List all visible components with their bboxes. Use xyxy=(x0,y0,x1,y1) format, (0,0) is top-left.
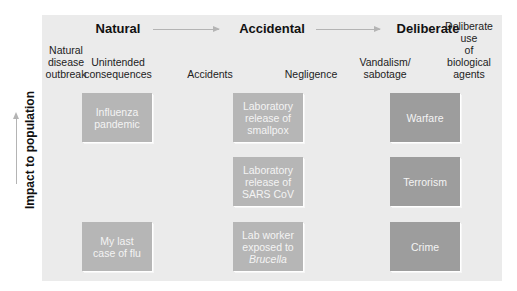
box-lab-release-sars-cov: Laboratory release of SARS CoV xyxy=(233,157,303,206)
subheading-negligence: Negligence xyxy=(285,68,338,80)
y-axis-label: Impact to population xyxy=(23,91,37,209)
box-terrorism: Terrorism xyxy=(390,157,460,206)
heading-accidental: Accidental xyxy=(239,21,305,36)
box-label-italic: Brucella xyxy=(249,253,287,265)
box-lab-release-smallpox: Laboratory release of smallpox xyxy=(233,93,303,142)
box-label-prefix: Lab worker exposed to xyxy=(242,229,294,253)
box-label: Lab worker exposed to Brucella xyxy=(242,229,294,265)
box-my-last-case-of-flu: My last case of flu xyxy=(82,222,152,271)
arrow-right-icon xyxy=(316,29,380,30)
subheading-vandalism-sabotage: Vandalism/ sabotage xyxy=(359,56,410,80)
arrow-up-icon xyxy=(16,118,17,184)
heading-natural: Natural xyxy=(96,21,141,36)
box-warfare: Warfare xyxy=(390,93,460,142)
subheading-natural-disease-outbreak: Natural disease outbreak xyxy=(46,44,87,80)
box-lab-worker-brucella: Lab worker exposed to Brucella xyxy=(233,222,303,271)
subheading-unintended-consequences: Unintended consequences xyxy=(84,56,152,80)
box-influenza-pandemic: Influenza pandemic xyxy=(82,93,152,142)
box-crime: Crime xyxy=(390,222,460,271)
subheading-accidents: Accidents xyxy=(187,68,233,80)
subheading-deliberate-use: Deliberate use of biological agents xyxy=(445,20,493,80)
arrow-right-icon xyxy=(153,29,219,30)
